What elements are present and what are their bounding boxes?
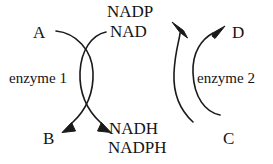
label-cofactor-nad: NAD <box>110 23 147 40</box>
label-cofactor-nadph: NADPH <box>108 139 167 156</box>
label-cofactor-nadh: NADH <box>109 120 158 137</box>
arrowhead-to-B <box>62 123 76 133</box>
label-enzyme-1: enzyme 1 <box>9 71 67 86</box>
label-product-B: B <box>43 130 54 147</box>
enzyme-cycle-diagram: A B C D NADP NAD NADH NADPH enzyme 1 enz… <box>0 0 273 164</box>
arrowhead-to-D <box>212 26 225 39</box>
right-cofactor-arrow <box>172 22 193 122</box>
label-enzyme-2: enzyme 2 <box>197 71 255 86</box>
label-substrate-C: C <box>223 130 234 147</box>
label-substrate-A: A <box>33 24 45 41</box>
label-cofactor-nadp: NADP <box>107 3 153 20</box>
label-product-D: D <box>232 24 244 41</box>
